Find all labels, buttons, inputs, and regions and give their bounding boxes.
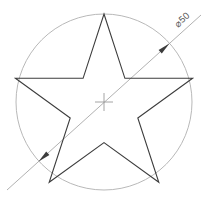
drawing-svg: ⌀50 (0, 0, 211, 205)
technical-drawing-canvas: ⌀50 (0, 0, 211, 205)
